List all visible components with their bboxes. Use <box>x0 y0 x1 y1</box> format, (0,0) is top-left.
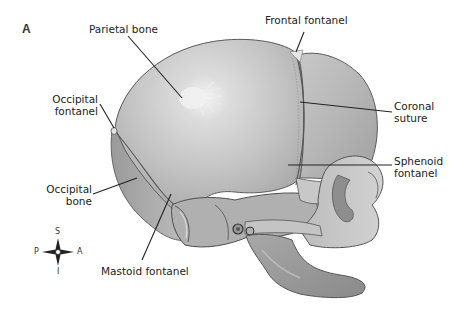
label-coronal-suture-line1: Coronal <box>394 100 434 112</box>
label-sphenoid-fontanel-line2: fontanel <box>394 167 443 179</box>
panel-label: A <box>22 22 31 36</box>
label-occipital-fontanel-line1: Occipital <box>44 93 98 105</box>
label-occipital-bone-line2: bone <box>36 195 92 207</box>
occipital-fontanel-shape <box>111 128 117 135</box>
skull-diagram: A Parietal bone Frontal fontanel Occipit… <box>0 0 462 318</box>
label-occipital-fontanel-line2: fontanel <box>44 105 98 117</box>
label-occipital-fontanel: Occipital fontanel <box>44 93 98 117</box>
label-mastoid-fontanel: Mastoid fontanel <box>101 265 189 277</box>
leader-occipital-fontanel <box>100 104 114 128</box>
label-parietal-bone: Parietal bone <box>89 23 158 35</box>
label-frontal-fontanel: Frontal fontanel <box>265 14 348 26</box>
temporal-region-shape <box>172 193 320 247</box>
label-coronal-suture-line2: suture <box>394 112 434 124</box>
leader-frontal-fontanel <box>296 32 304 52</box>
label-sphenoid-fontanel-line1: Sphenoid <box>394 155 443 167</box>
label-occipital-bone: Occipital bone <box>36 183 92 207</box>
skull-illustration <box>0 0 462 318</box>
label-sphenoid-fontanel: Sphenoid fontanel <box>394 155 443 179</box>
compass-icon <box>42 238 74 266</box>
compass-label-inferior: I <box>57 267 59 276</box>
compass-label-anterior: A <box>77 247 82 256</box>
label-coronal-suture: Coronal suture <box>394 100 434 124</box>
compass-label-superior: S <box>55 227 60 236</box>
compass-label-posterior: P <box>34 247 39 256</box>
label-occipital-bone-line1: Occipital <box>36 183 92 195</box>
